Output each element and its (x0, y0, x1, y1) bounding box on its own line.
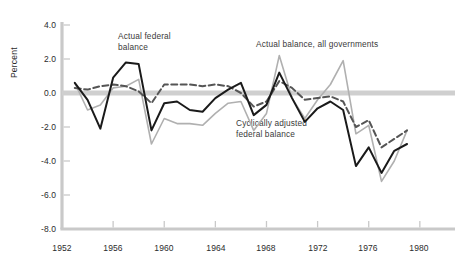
plot-area (0, 0, 462, 273)
series-line-actual-federal-balance (75, 62, 407, 172)
chart-container: Percent 4.0 2.0 0.0 -2.0 -4.0 -6.0 -8.0 … (0, 0, 462, 273)
